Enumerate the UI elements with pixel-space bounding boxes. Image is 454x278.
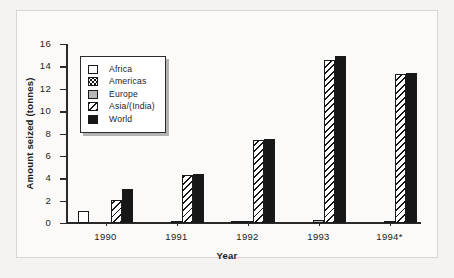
bar-asia-india xyxy=(324,60,335,223)
x-axis-tick-label: 1993 xyxy=(307,231,329,242)
legend-swatch-icon xyxy=(88,102,98,111)
y-axis-tick: 16 xyxy=(60,44,66,45)
legend-item-label: Asia/(India) xyxy=(109,102,155,111)
legend-item-label: Europe xyxy=(109,90,138,99)
x-axis-tick-label: 1990 xyxy=(94,231,116,242)
y-axis-tick: 12 xyxy=(60,89,66,90)
x-axis-tick-label: 1991 xyxy=(165,231,187,242)
chart-legend: AfricaAmericasEuropeAsia/(India)World xyxy=(80,56,166,133)
y-axis-tick: 10 xyxy=(60,111,66,112)
bar-world xyxy=(122,189,133,223)
y-axis-tick: 2 xyxy=(60,201,66,202)
bar-world xyxy=(193,174,204,223)
y-axis-tick: 14 xyxy=(60,66,66,67)
x-axis-tick-label: 1992 xyxy=(236,231,258,242)
x-axis-tick xyxy=(177,222,178,226)
y-axis-tick: 6 xyxy=(60,156,66,157)
y-axis-tick-label: 14 xyxy=(40,61,51,71)
y-axis-tick-label: 2 xyxy=(45,196,51,206)
y-axis-tick: 0 xyxy=(60,223,66,224)
legend-swatch-icon xyxy=(88,90,98,99)
legend-swatch-icon xyxy=(88,115,98,124)
bar-asia-india xyxy=(395,74,406,223)
bar-world xyxy=(406,73,417,223)
legend-item-label: Americas xyxy=(109,77,146,86)
bar-group xyxy=(362,44,417,223)
bar-africa xyxy=(78,211,89,223)
bar-asia-india xyxy=(111,200,122,223)
legend-item-label: Africa xyxy=(109,65,132,74)
legend-swatch-icon xyxy=(88,77,98,86)
y-axis-tick-label: 0 xyxy=(45,218,51,228)
y-axis-tick-label: 8 xyxy=(45,129,51,139)
bar-americas xyxy=(231,221,242,223)
legend-item: World xyxy=(88,113,155,126)
y-axis-tick: 8 xyxy=(60,134,66,135)
legend-item: Americas xyxy=(88,76,155,89)
chart-figure: Amount seized (tonnes) 0246810121416 Yea… xyxy=(0,0,454,278)
bar-world xyxy=(335,56,346,223)
x-axis-tick xyxy=(248,222,249,226)
bar-asia-india xyxy=(182,175,193,223)
y-axis-tick-label: 6 xyxy=(45,151,51,161)
x-axis-title: Year xyxy=(0,250,454,261)
legend-swatch-icon xyxy=(88,65,98,74)
x-axis-tick xyxy=(390,222,391,226)
x-axis-tick-label: 1994* xyxy=(376,231,402,242)
legend-item: Africa xyxy=(88,63,155,76)
y-axis-title-text: Amount seized (tonnes) xyxy=(24,77,35,189)
x-axis-tick xyxy=(106,222,107,226)
bar-world xyxy=(264,139,275,223)
bar-group xyxy=(220,44,275,223)
y-axis-tick-label: 4 xyxy=(45,173,51,183)
y-axis-tick-label: 12 xyxy=(40,84,51,94)
bar-asia-india xyxy=(253,140,264,223)
y-axis-tick: 4 xyxy=(60,178,66,179)
y-axis-tick-label: 16 xyxy=(40,39,51,49)
bar-group xyxy=(291,44,346,223)
legend-item: Europe xyxy=(88,88,155,101)
y-axis-tick-label: 10 xyxy=(40,106,51,116)
y-axis-title: Amount seized (tonnes) xyxy=(22,44,36,223)
legend-item: Asia/(India) xyxy=(88,101,155,114)
x-axis-tick xyxy=(319,222,320,226)
legend-item-label: World xyxy=(109,115,132,124)
